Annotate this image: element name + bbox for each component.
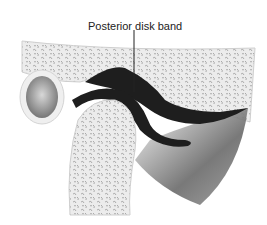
tmj-diagram: [0, 0, 267, 225]
mandibular-condyle: [69, 100, 136, 215]
auditory-canal: [26, 76, 58, 118]
